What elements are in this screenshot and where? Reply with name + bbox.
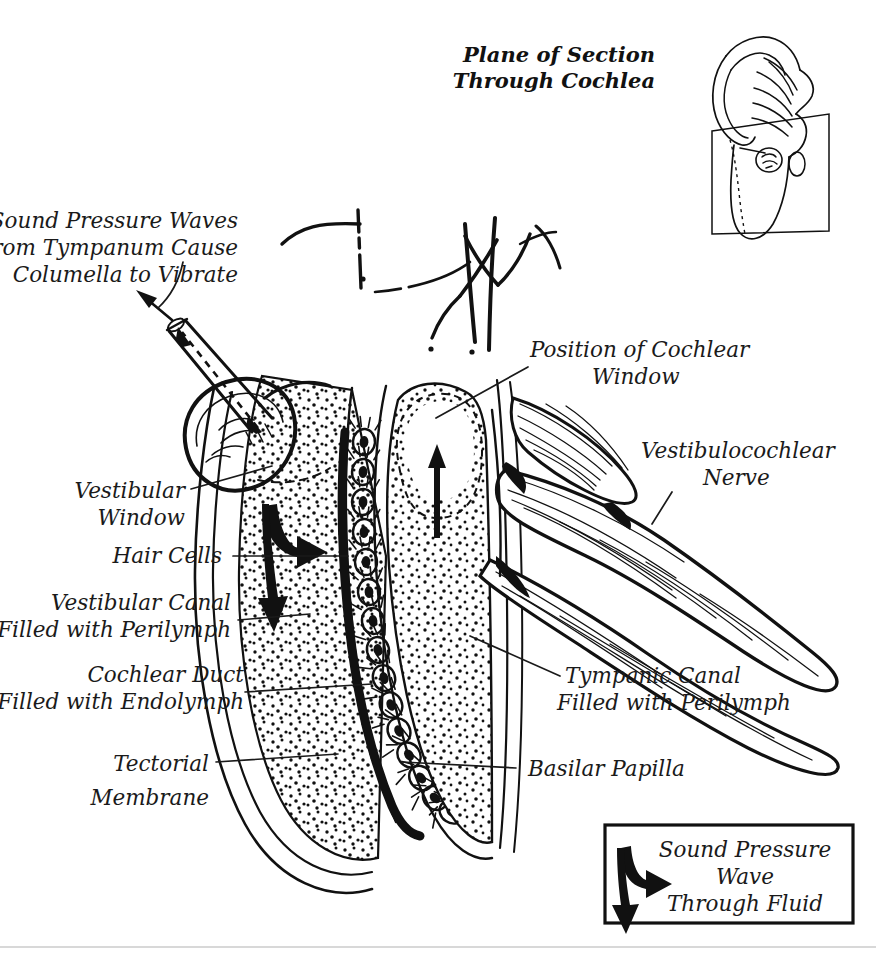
label-line: Sound Pressure Waves [0,208,238,233]
label-basilar-papilla: Basilar Papilla [527,756,685,781]
figure-title-line-2: Through Cochlea [453,68,655,93]
label-line: Vestibular Canal [51,590,231,615]
label-line: Filled with Perilymph [556,690,791,715]
label-vestibulocochlear-nerve: Vestibulocochlear Nerve [641,438,837,490]
columella [136,290,272,434]
label-line: Cochlear Duct [87,662,244,687]
tympanic-canal [374,380,522,859]
label-line: Tympanic Canal [565,663,741,688]
figure-title: Plane of Section Through Cochlea [453,42,655,93]
cochlea-diagram-page: Plane of Section Through Cochlea [0,0,876,955]
leader-vestibulocochlear-nerve [652,492,672,524]
label-line: Window [97,505,185,530]
label-line: Membrane [89,785,209,810]
label-line: Position of Cochlear [529,337,751,362]
label-line: Tectorial [113,751,209,776]
label-line: Basilar Papilla [527,756,685,781]
label-line: Hair Cells [111,543,222,568]
legend-line: Wave [716,864,774,889]
label-line: Vestibulocochlear [641,438,837,463]
label-position-cochlear-window: Position of Cochlear Window [529,337,751,389]
figure-title-line-1: Plane of Section [462,42,655,67]
label-line: Window [592,364,680,389]
label-sound-pressure-waves: Sound Pressure Waves from Tympanum Cause… [0,208,238,287]
label-vestibular-window: Vestibular Window [75,478,187,530]
label-line: Columella to Vibrate [13,262,238,287]
legend-line: Through Fluid [667,891,823,916]
cochlea-figure: Plane of Section Through Cochlea [0,0,876,955]
head-ear-section-plane-inset [712,37,829,239]
label-line: Filled with Perilymph [0,617,231,642]
label-cochlear-duct: Cochlear Duct Filled with Endolymph [0,662,244,714]
label-line: from Tympanum Cause [0,235,238,260]
legend-line: Sound Pressure [659,837,831,862]
sound-pressure-wave-legend: Sound Pressure Wave Through Fluid [605,825,853,934]
upper-vessel-branches [282,210,560,355]
label-tectorial-membrane: Tectorial Membrane [89,751,209,810]
sound-direction-arrow [136,290,172,320]
label-line: Filled with Endolymph [0,689,244,714]
label-line: Nerve [702,465,770,490]
label-line: Vestibular [75,478,187,503]
label-hair-cells: Hair Cells [111,543,222,568]
